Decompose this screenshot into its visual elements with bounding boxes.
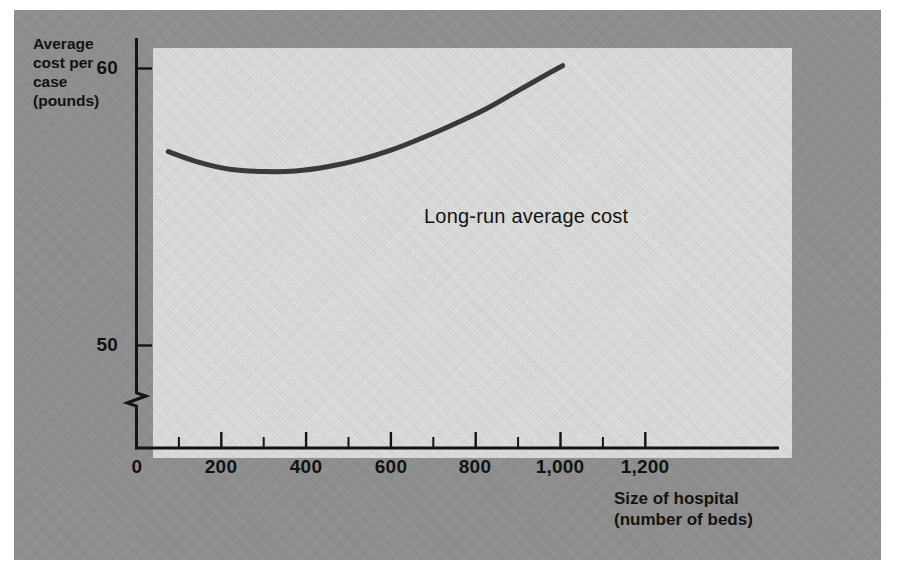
figure-root: Average cost per case (pounds) 60 50 0 2… <box>0 0 897 574</box>
chart-svg <box>0 0 897 574</box>
y-axis-break-zigzag <box>127 392 146 407</box>
series-line-long-run-average-cost <box>168 66 562 172</box>
